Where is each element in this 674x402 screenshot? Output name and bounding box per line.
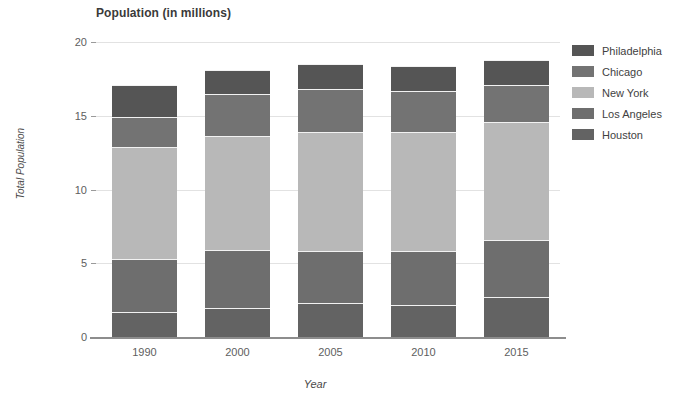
bar-segment[interactable] (298, 251, 363, 303)
bar-segment[interactable] (298, 303, 363, 337)
x-axis-title: Year (0, 378, 630, 390)
legend-swatch (572, 45, 594, 56)
bar-segment[interactable] (484, 85, 549, 122)
legend-item[interactable]: Philadelphia (572, 40, 672, 61)
legend-item[interactable]: New York (572, 82, 672, 103)
legend-swatch (572, 108, 594, 119)
bar-stack[interactable] (484, 60, 549, 337)
bar-segment[interactable] (298, 89, 363, 132)
y-axis-tick-label: 0 (81, 331, 87, 343)
legend-swatch (572, 87, 594, 98)
legend-item[interactable]: Los Angeles (572, 103, 672, 124)
bar-segment[interactable] (484, 297, 549, 337)
legend-label: Philadelphia (602, 45, 662, 57)
x-axis-tick-label: 2010 (379, 346, 469, 358)
y-axis-tick-label: 5 (81, 257, 87, 269)
bar-segment[interactable] (391, 66, 456, 91)
bar-segment[interactable] (298, 64, 363, 89)
y-axis-tick (91, 116, 96, 117)
bar-segment[interactable] (391, 132, 456, 251)
legend: PhiladelphiaChicagoNew YorkLos AngelesHo… (572, 40, 672, 145)
x-axis-line (90, 337, 566, 339)
bar-segment[interactable] (112, 117, 177, 147)
bar-segment[interactable] (391, 251, 456, 304)
x-axis-tick-label: 2005 (286, 346, 376, 358)
y-axis-title: Total Population (15, 104, 26, 224)
y-axis-tick (91, 190, 96, 191)
y-axis-tick-label: 20 (75, 36, 87, 48)
plot-area: 05101520 19902000200520102015 (96, 42, 560, 337)
bar-segment[interactable] (205, 308, 270, 338)
x-axis-tick-label: 1990 (100, 346, 190, 358)
bar-segment[interactable] (391, 91, 456, 132)
bar-segment[interactable] (205, 250, 270, 308)
bar-segment[interactable] (484, 240, 549, 298)
x-axis-tick-label: 2000 (193, 346, 283, 358)
bar-segment[interactable] (112, 259, 177, 312)
bar-segment[interactable] (484, 122, 549, 240)
chart-title: Population (in millions) (96, 6, 231, 20)
bar-segment[interactable] (205, 70, 270, 94)
bar-stack[interactable] (298, 64, 363, 337)
y-axis-tick (91, 42, 96, 43)
bar-segment[interactable] (298, 132, 363, 251)
legend-label: Houston (602, 129, 643, 141)
y-axis-tick-label: 15 (75, 110, 87, 122)
bar-segment[interactable] (205, 94, 270, 137)
legend-label: Los Angeles (602, 108, 662, 120)
legend-swatch (572, 129, 594, 140)
gridline (96, 42, 560, 43)
x-axis-tick-label: 2015 (472, 346, 562, 358)
stacked-bar-chart: Population (in millions) Total Populatio… (0, 0, 674, 402)
bar-segment[interactable] (112, 85, 177, 117)
bar-stack[interactable] (391, 66, 456, 337)
y-axis-tick (91, 263, 96, 264)
legend-label: Chicago (602, 66, 642, 78)
bar-stack[interactable] (112, 85, 177, 337)
y-axis-tick-label: 10 (75, 184, 87, 196)
bar-segment[interactable] (484, 60, 549, 85)
legend-item[interactable]: Chicago (572, 61, 672, 82)
bar-segment[interactable] (205, 136, 270, 250)
legend-swatch (572, 66, 594, 77)
bar-segment[interactable] (112, 147, 177, 259)
legend-item[interactable]: Houston (572, 124, 672, 145)
bar-stack[interactable] (205, 70, 270, 337)
bar-segment[interactable] (112, 312, 177, 337)
legend-label: New York (602, 87, 648, 99)
bar-segment[interactable] (391, 305, 456, 337)
